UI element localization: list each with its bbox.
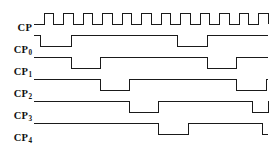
waveform-cp1 bbox=[34, 57, 268, 68]
waveform-cp3 bbox=[34, 101, 268, 112]
waveform-canvas bbox=[0, 0, 274, 152]
waveform-cp4 bbox=[34, 123, 268, 134]
waveform-cp2 bbox=[34, 79, 268, 90]
timing-diagram: CPCP0CP1CP2CP3CP4 bbox=[0, 0, 274, 152]
waveform-cp0 bbox=[34, 35, 268, 46]
waveform-cp bbox=[34, 13, 268, 24]
waveform-paths bbox=[34, 13, 268, 134]
